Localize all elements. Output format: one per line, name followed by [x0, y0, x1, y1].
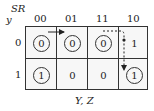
x-axis-label: Y, Z [75, 96, 94, 106]
